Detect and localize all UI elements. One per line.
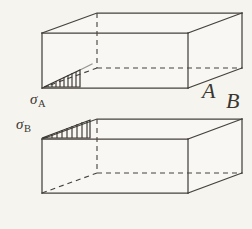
sigma-b-subscript: B — [24, 123, 31, 134]
figure-root: A B σA σB — [0, 0, 252, 229]
figure-canvas — [0, 0, 252, 229]
sigma-a-subscript: A — [38, 98, 46, 109]
box-a-group — [42, 13, 242, 88]
label-stress-sigma-a: σA — [30, 92, 45, 107]
label-box-b: B — [226, 90, 239, 112]
sigma-a-symbol: σ — [30, 91, 37, 107]
label-stress-sigma-b: σB — [16, 117, 30, 132]
label-box-a: A — [202, 80, 215, 102]
box-b-group — [42, 119, 242, 193]
box-b-front-face — [42, 139, 188, 193]
sigma-b-symbol: σ — [16, 116, 23, 132]
